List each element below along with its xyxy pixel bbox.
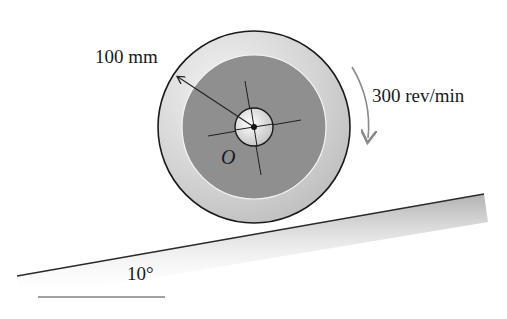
wheel-on-incline-diagram xyxy=(0,0,507,319)
angular-speed-label: 300 rev/min xyxy=(372,85,464,107)
incline-angle-label: 10° xyxy=(127,263,154,285)
center-point-label: O xyxy=(221,146,235,169)
radius-label: 100 mm xyxy=(95,46,158,68)
wheel xyxy=(158,31,350,223)
rotation-direction-arrow xyxy=(352,67,369,138)
